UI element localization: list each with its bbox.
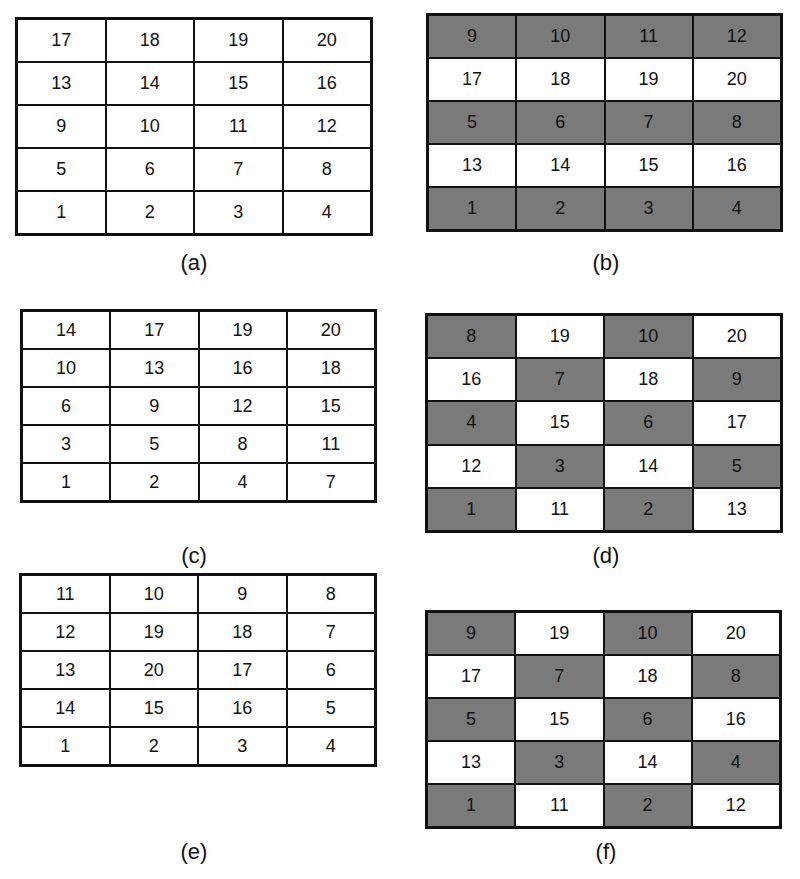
grid-panel-b: 9101112171819205678131415161234 (426, 13, 783, 232)
grid-cell: 7 (605, 101, 693, 144)
grid-cell: 20 (283, 19, 372, 62)
grid-cell: 10 (22, 349, 110, 387)
grid-cell: 18 (287, 349, 375, 387)
grid-cell: 2 (604, 784, 692, 827)
grid-cell: 4 (693, 187, 781, 230)
grid-cell: 13 (21, 651, 110, 689)
grid-cell: 12 (427, 445, 516, 488)
grid-cell: 3 (194, 191, 283, 234)
grid-cell: 15 (110, 689, 199, 727)
grid-cell: 8 (427, 315, 516, 358)
grid-cell: 15 (287, 387, 375, 425)
grid-cell: 4 (283, 191, 372, 234)
grid-cell: 19 (515, 612, 603, 655)
grid-cell: 10 (516, 15, 604, 58)
panel-caption-a: (a) (164, 250, 224, 276)
grid-cell: 6 (287, 651, 376, 689)
grid-cell: 10 (604, 612, 692, 655)
grid-cell: 5 (428, 101, 516, 144)
grid-cell: 4 (287, 727, 376, 765)
grid-cell: 9 (110, 387, 198, 425)
grid-cell: 13 (693, 488, 782, 531)
grid-cell: 19 (110, 613, 199, 651)
grid-cell: 6 (22, 387, 110, 425)
grid-cell: 9 (198, 575, 287, 613)
grid-cell: 1 (427, 488, 516, 531)
grid-cell: 7 (194, 148, 283, 191)
grid-cell: 2 (110, 463, 198, 501)
grid-cell: 12 (21, 613, 110, 651)
grid-cell: 3 (22, 425, 110, 463)
grid-cell: 8 (287, 575, 376, 613)
grid-cell: 3 (516, 445, 605, 488)
grid-cell: 5 (110, 425, 198, 463)
grid-cell: 9 (427, 612, 515, 655)
grid-cell: 10 (604, 315, 693, 358)
grid-cell: 11 (516, 488, 605, 531)
grid-cell: 15 (605, 144, 693, 187)
grid-cell: 4 (427, 401, 516, 444)
grid-cell: 15 (516, 401, 605, 444)
grid-panel-a: 1718192013141516910111256781234 (15, 17, 373, 236)
grid-cell: 8 (692, 655, 780, 698)
grid-cell: 14 (21, 689, 110, 727)
grid-cell: 1 (427, 784, 515, 827)
grid-panel-f: 9191020177188515616133144111212 (425, 610, 782, 829)
grid-cell: 18 (198, 613, 287, 651)
grid-cell: 11 (21, 575, 110, 613)
grid-cell: 11 (515, 784, 603, 827)
grid-cell: 13 (17, 62, 106, 105)
grid-cell: 11 (194, 105, 283, 148)
grid-panel-c: 1417192010131618691215358111247 (20, 309, 377, 503)
grid-cell: 14 (22, 311, 110, 349)
grid-panel-e: 1110981219187132017614151651234 (19, 573, 377, 767)
grid-cell: 14 (106, 62, 195, 105)
grid-cell: 18 (106, 19, 195, 62)
grid-cell: 10 (110, 575, 199, 613)
grid-cell: 3 (198, 727, 287, 765)
grid-cell: 10 (106, 105, 195, 148)
grid-cell: 7 (287, 463, 375, 501)
grid-cell: 2 (106, 191, 195, 234)
grid-cell: 16 (692, 698, 780, 741)
grid-cell: 15 (515, 698, 603, 741)
grid-cell: 8 (199, 425, 287, 463)
grid-cell: 4 (199, 463, 287, 501)
grid-cell: 13 (110, 349, 198, 387)
grid-cell: 11 (287, 425, 375, 463)
grid-cell: 1 (21, 727, 110, 765)
grid-cell: 20 (693, 58, 781, 101)
panel-caption-b: (b) (576, 250, 636, 276)
grid-cell: 14 (604, 741, 692, 784)
grid-cell: 13 (427, 741, 515, 784)
grid-cell: 2 (110, 727, 199, 765)
grid-cell: 7 (287, 613, 376, 651)
grid-cell: 17 (17, 19, 106, 62)
grid-cell: 8 (283, 148, 372, 191)
grid-cell: 7 (516, 358, 605, 401)
grid-cell: 17 (110, 311, 198, 349)
grid-cell: 18 (604, 655, 692, 698)
grid-cell: 14 (516, 144, 604, 187)
grid-panel-d: 8191020167189415617123145111213 (425, 313, 783, 533)
grid-cell: 3 (605, 187, 693, 230)
grid-cell: 5 (17, 148, 106, 191)
grid-cell: 11 (605, 15, 693, 58)
grid-cell: 19 (199, 311, 287, 349)
grid-cell: 8 (693, 101, 781, 144)
grid-cell: 5 (427, 698, 515, 741)
grid-cell: 18 (516, 58, 604, 101)
grid-cell: 17 (198, 651, 287, 689)
grid-cell: 5 (287, 689, 376, 727)
grid-cell: 12 (199, 387, 287, 425)
grid-cell: 12 (283, 105, 372, 148)
grid-cell: 1 (428, 187, 516, 230)
grid-cell: 9 (693, 358, 782, 401)
grid-cell: 2 (604, 488, 693, 531)
grid-cell: 3 (515, 741, 603, 784)
grid-cell: 6 (516, 101, 604, 144)
grid-cell: 16 (427, 358, 516, 401)
grid-cell: 13 (428, 144, 516, 187)
grid-cell: 17 (693, 401, 782, 444)
grid-cell: 19 (605, 58, 693, 101)
